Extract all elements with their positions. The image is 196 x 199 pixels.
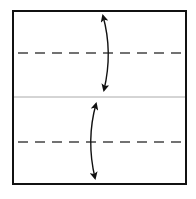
- fold-diagram: [0, 0, 196, 199]
